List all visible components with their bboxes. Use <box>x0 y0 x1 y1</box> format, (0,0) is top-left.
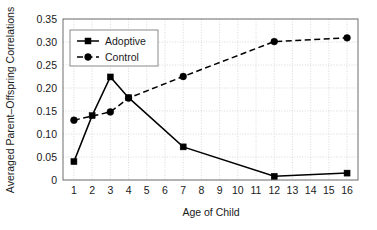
x-tick-label: 9 <box>217 184 223 196</box>
x-axis-title: Age of Child <box>182 206 239 218</box>
x-tick-label: 4 <box>126 184 132 196</box>
y-tick-label: 0.05 <box>37 151 58 163</box>
data-point-adoptive <box>271 173 277 179</box>
x-tick-label: 15 <box>323 184 335 196</box>
x-tick-label: 14 <box>305 184 317 196</box>
data-point-control <box>344 34 351 41</box>
data-point-adoptive <box>89 113 95 119</box>
x-tick-label: 12 <box>268 184 280 196</box>
y-tick-label: 0 <box>51 174 57 186</box>
y-tick-label: 0.35 <box>37 13 58 25</box>
x-tick-label: 1 <box>71 184 77 196</box>
data-point-adoptive <box>180 144 186 150</box>
series-line-adoptive <box>74 77 347 176</box>
y-axis-title: Averaged Parent–Offspring Correlations <box>4 7 16 193</box>
x-tick-label: 10 <box>232 184 244 196</box>
data-point-control <box>180 73 187 80</box>
data-point-control <box>107 109 114 116</box>
legend-marker-control <box>85 54 92 61</box>
x-tick-label: 3 <box>107 184 113 196</box>
legend-marker-adoptive <box>85 38 91 44</box>
x-tick-label: 16 <box>341 184 353 196</box>
x-tick-label: 6 <box>162 184 168 196</box>
y-tick-label: 0.20 <box>37 82 58 94</box>
chart-figure: 00.050.100.150.200.250.300.35 1234567891… <box>0 0 377 230</box>
y-tick-label: 0.10 <box>37 128 58 140</box>
data-point-control <box>125 95 132 102</box>
legend-label-adoptive: Adoptive <box>105 35 146 47</box>
x-tick-label: 2 <box>89 184 95 196</box>
y-axis-tick-labels: 00.050.100.150.200.250.300.35 <box>37 13 58 186</box>
x-tick-label: 7 <box>180 184 186 196</box>
x-tick-label: 13 <box>287 184 299 196</box>
data-point-adoptive <box>344 170 350 176</box>
line-chart: 00.050.100.150.200.250.300.35 1234567891… <box>0 0 377 230</box>
legend-label-control: Control <box>105 51 139 63</box>
y-tick-label: 0.25 <box>37 59 58 71</box>
data-point-adoptive <box>107 74 113 80</box>
x-axis-tick-labels: 12345678910111213141516 <box>71 184 353 196</box>
x-tick-label: 11 <box>251 184 262 196</box>
y-tick-label: 0.30 <box>37 36 58 48</box>
data-point-adoptive <box>71 159 77 165</box>
chart-legend: AdoptiveControl <box>70 30 158 66</box>
data-point-control <box>271 38 278 45</box>
data-point-control <box>71 117 78 124</box>
x-tick-label: 5 <box>144 184 150 196</box>
x-tick-label: 8 <box>198 184 204 196</box>
y-tick-label: 0.15 <box>37 105 58 117</box>
